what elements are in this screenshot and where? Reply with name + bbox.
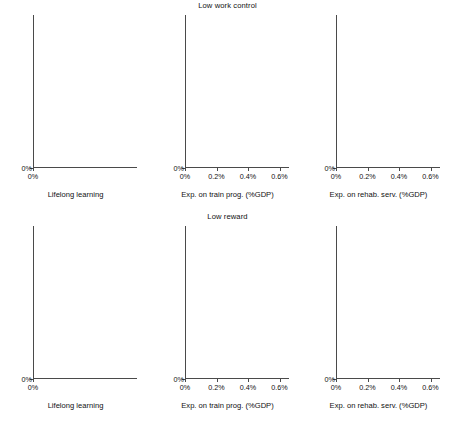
x-axis-title: Lifelong learning bbox=[0, 401, 151, 410]
x-tick-label: 0% bbox=[331, 172, 341, 181]
y-axis-line bbox=[185, 15, 186, 168]
x-axis-title: Exp. on train prog. (%GDP) bbox=[152, 401, 303, 410]
x-tick-label: 0% bbox=[180, 172, 190, 181]
x-axis-title: Exp. on train prog. (%GDP) bbox=[152, 190, 303, 199]
x-tick-mark bbox=[336, 168, 337, 171]
x-tick-label: 0% bbox=[28, 172, 38, 181]
x-tick-label: 0.6% bbox=[271, 383, 287, 392]
x-axis-title: Lifelong learning bbox=[0, 190, 151, 199]
y-axis-line bbox=[33, 226, 34, 379]
plot-area: 0%10%20%30%0%0.2%0.4%0.6%GRITPLESBEFRATC… bbox=[336, 15, 440, 168]
x-axis-title: Exp. on rehab. serv. (%GDP) bbox=[303, 190, 454, 199]
panel-tr: 0%10%20%30%0%0.2%0.4%0.6%GRITPLESBEFRATC… bbox=[303, 0, 454, 210]
x-tick-label: 0.4% bbox=[391, 172, 407, 181]
x-axis-line bbox=[185, 167, 289, 168]
regression-line bbox=[185, 226, 289, 379]
x-tick-mark bbox=[33, 168, 34, 171]
regression-line bbox=[33, 15, 137, 168]
x-tick-mark bbox=[248, 168, 249, 171]
x-tick-mark bbox=[33, 379, 34, 382]
x-axis-line bbox=[33, 378, 137, 379]
x-axis-line bbox=[336, 167, 440, 168]
x-tick-mark bbox=[185, 379, 186, 382]
x-tick-label: 0.2% bbox=[208, 172, 224, 181]
panel-br: 0%10%20%30%0%0.2%0.4%0.6%ESCZITFRGRPLBEA… bbox=[303, 211, 454, 421]
x-tick-label: 0.6% bbox=[422, 383, 438, 392]
regression-line bbox=[33, 226, 137, 379]
x-tick-mark bbox=[399, 379, 400, 382]
plot-area: 0%10%20%30%0%0.2%0.4%0.6%ESCZGRITFRPLBEA… bbox=[185, 226, 289, 379]
plot-area: 0%10%20%30%0%0.2%0.4%0.6%GRITPLESBEATFRC… bbox=[185, 15, 289, 168]
x-tick-mark bbox=[336, 379, 337, 382]
y-axis-line bbox=[33, 15, 34, 168]
x-tick-mark bbox=[185, 168, 186, 171]
x-tick-label: 0.6% bbox=[271, 172, 287, 181]
x-tick-label: 0.4% bbox=[240, 172, 256, 181]
x-axis-line bbox=[336, 378, 440, 379]
regression-line bbox=[185, 15, 289, 168]
x-axis-line bbox=[33, 167, 137, 168]
x-tick-mark bbox=[217, 379, 218, 382]
x-tick-mark bbox=[399, 168, 400, 171]
x-tick-label: 0.2% bbox=[359, 383, 375, 392]
y-axis-line bbox=[336, 15, 337, 168]
x-tick-mark bbox=[368, 168, 369, 171]
regression-line bbox=[336, 226, 440, 379]
plot-area: 0%10%20%30%0%10%20%30%ESCZITGRFRPLBEATDE… bbox=[33, 226, 137, 379]
x-tick-mark bbox=[431, 379, 432, 382]
panel-title: Low reward bbox=[152, 212, 303, 221]
x-tick-label: 0% bbox=[28, 383, 38, 392]
x-tick-mark bbox=[280, 379, 281, 382]
x-tick-mark bbox=[248, 379, 249, 382]
y-axis-line bbox=[336, 226, 337, 379]
panel-tm: Low work control0%10%20%30%0%0.2%0.4%0.6… bbox=[152, 0, 303, 210]
x-tick-mark bbox=[280, 168, 281, 171]
panel-bm: Low reward0%10%20%30%0%0.2%0.4%0.6%ESCZG… bbox=[152, 211, 303, 421]
x-tick-mark bbox=[217, 168, 218, 171]
x-tick-label: 0% bbox=[331, 383, 341, 392]
x-tick-label: 0% bbox=[180, 383, 190, 392]
x-tick-label: 0.4% bbox=[240, 383, 256, 392]
x-tick-label: 0.4% bbox=[391, 383, 407, 392]
x-tick-label: 0.6% bbox=[422, 172, 438, 181]
x-tick-label: 0.2% bbox=[359, 172, 375, 181]
x-tick-label: 0.2% bbox=[208, 383, 224, 392]
x-tick-mark bbox=[368, 379, 369, 382]
panel-bl: 0%10%20%30%0%10%20%30%ESCZITGRFRPLBEATDE… bbox=[0, 211, 151, 421]
plot-area: 0%10%20%30%0%0.2%0.4%0.6%ESCZITFRGRPLBEA… bbox=[336, 226, 440, 379]
x-axis-title: Exp. on rehab. serv. (%GDP) bbox=[303, 401, 454, 410]
panel-tl: 0%10%20%30%0%10%20%30%GRITPLESBEATFRCZDE… bbox=[0, 0, 151, 210]
scatter-plot-figure: 0%10%20%30%0%10%20%30%GRITPLESBEATFRCZDE… bbox=[0, 0, 455, 421]
panel-title: Low work control bbox=[152, 1, 303, 10]
regression-line bbox=[336, 15, 440, 168]
y-axis-line bbox=[185, 226, 186, 379]
plot-area: 0%10%20%30%0%10%20%30%GRITPLESBEATFRCZDE… bbox=[33, 15, 137, 168]
x-axis-line bbox=[185, 378, 289, 379]
x-tick-mark bbox=[431, 168, 432, 171]
